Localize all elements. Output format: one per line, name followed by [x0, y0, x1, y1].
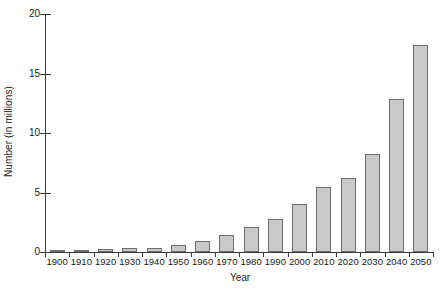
x-axis-tick-labels: 1900191019201930194019501960197019801990… — [45, 256, 435, 270]
x-tick-label: 2020 — [338, 256, 359, 268]
bar — [244, 227, 259, 252]
plot-area: 05101520 — [45, 14, 433, 252]
y-tick-mark — [40, 74, 51, 75]
y-tick-label: 5 — [34, 186, 40, 200]
bar — [147, 248, 162, 252]
y-tick: 10 — [45, 133, 56, 134]
y-tick: 0 — [45, 252, 56, 253]
x-axis-title: Year — [45, 272, 435, 283]
y-axis-title: Number (in millions) — [0, 0, 16, 289]
x-tick-label: 2030 — [362, 256, 383, 268]
y-tick: 15 — [45, 74, 56, 75]
x-tick-label: 1930 — [119, 256, 140, 268]
bar-chart: Number (in millions) 05101520 1900191019… — [0, 0, 440, 289]
bar — [74, 250, 89, 252]
bar — [268, 219, 283, 252]
x-tick-label: 2050 — [410, 256, 431, 268]
bar — [292, 204, 307, 252]
bar — [365, 154, 380, 252]
bar — [50, 250, 65, 252]
x-tick-label: 2040 — [386, 256, 407, 268]
y-tick-label: 20 — [29, 7, 40, 21]
x-tick-label: 1970 — [216, 256, 237, 268]
y-tick: 20 — [45, 14, 56, 15]
x-tick-label: 2000 — [289, 256, 310, 268]
x-tick-label: 1920 — [95, 256, 116, 268]
y-tick-label: 15 — [29, 67, 40, 81]
y-tick-mark — [40, 193, 51, 194]
y-tick-label: 10 — [29, 126, 40, 140]
bar — [316, 187, 331, 252]
x-tick-label: 1900 — [47, 256, 68, 268]
bar — [195, 241, 210, 252]
bar — [171, 245, 186, 252]
y-tick-label: 0 — [34, 245, 40, 259]
bar — [98, 249, 113, 252]
x-tick-label: 1940 — [144, 256, 165, 268]
bar — [219, 235, 234, 252]
y-tick-mark — [40, 133, 51, 134]
y-tick-mark — [40, 14, 51, 15]
y-tick: 5 — [45, 193, 56, 194]
bar — [413, 45, 428, 252]
bar — [122, 248, 137, 252]
x-tick-label: 1990 — [265, 256, 286, 268]
bar — [389, 99, 404, 253]
x-tick-label: 1980 — [241, 256, 262, 268]
x-tick-label: 2010 — [313, 256, 334, 268]
x-tick-label: 1910 — [71, 256, 92, 268]
x-tick-label: 1960 — [192, 256, 213, 268]
y-axis-title-label: Number (in millions) — [3, 86, 14, 177]
bar — [341, 178, 356, 252]
x-tick-label: 1950 — [168, 256, 189, 268]
